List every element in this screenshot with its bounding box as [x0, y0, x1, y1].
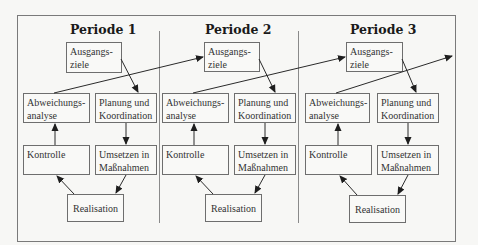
p3-ziele-to-planung-arrow: [402, 59, 416, 92]
p1-ziele-to-planung-arrow: [121, 59, 138, 92]
p1-umsetzen-to-realisation-arrow: [116, 175, 126, 193]
p2-umsetzen-to-realisation-arrow: [255, 175, 265, 193]
p3-realisation-to-kontrolle-arrow: [340, 176, 357, 195]
p2-realisation-to-kontrolle-arrow: [196, 176, 213, 194]
p3-umsetzen-to-realisation-arrow: [398, 175, 408, 194]
connector-arrows: [0, 0, 478, 245]
p1-abweichung-to-p2-ziele-arrow: [54, 57, 203, 93]
p1-realisation-to-kontrolle-arrow: [57, 176, 74, 194]
p2-abweichung-to-p3-ziele-arrow: [193, 57, 345, 93]
p3-abweichung-to-next-period-arrow: [336, 56, 452, 93]
